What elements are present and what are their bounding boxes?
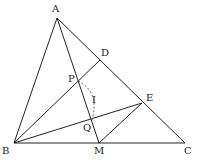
label-Q: Q [83,123,91,133]
label-C: C [184,146,192,156]
geometry-figure [0,0,197,162]
segment-AM [57,18,99,143]
label-E: E [146,93,153,103]
arc-label-I: I [92,95,96,105]
label-A: A [52,4,59,14]
label-D: D [101,48,109,58]
label-M: M [94,146,104,156]
segment-AB [14,18,57,143]
segment-BE [14,103,142,143]
segment-CA [57,18,185,143]
segment-ME [99,103,142,143]
label-P: P [68,74,75,84]
label-B: B [2,146,9,156]
